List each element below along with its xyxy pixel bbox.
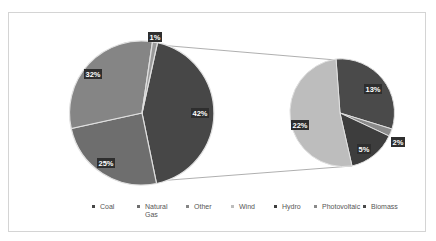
legend-marker-icon [92, 205, 95, 208]
chart-legend: Coal NaturalGas Other Wind Hydro Photovo… [92, 203, 412, 227]
legend-marker-icon [231, 205, 234, 208]
legend-item-photovoltaic[interactable]: Photovoltaic [314, 203, 360, 211]
legend-item-coal[interactable]: Coal [92, 203, 114, 211]
legend-item-other[interactable]: Other [186, 203, 212, 211]
label-natural-gas: 25% [98, 159, 113, 168]
secondary-pie [290, 59, 395, 167]
label-photovoltaic: 2% [393, 138, 404, 147]
legend-marker-icon [137, 205, 140, 208]
label-wind: 22% [292, 121, 307, 130]
label-biomass: 13% [365, 85, 380, 94]
legend-marker-icon [314, 205, 317, 208]
legend-marker-icon [186, 205, 189, 208]
legend-marker-icon [363, 205, 366, 208]
legend-item-wind[interactable]: Wind [231, 203, 255, 211]
legend-item-hydro[interactable]: Hydro [274, 203, 301, 211]
label-small: 1% [150, 33, 161, 42]
legend-marker-icon [274, 205, 277, 208]
label-other: 32% [85, 70, 100, 79]
label-hydro: 5% [359, 145, 370, 154]
legend-item-biomass[interactable]: Biomass [363, 203, 398, 211]
legend-item-natural-gas[interactable]: NaturalGas [137, 203, 168, 219]
label-coal: 42% [192, 109, 207, 118]
